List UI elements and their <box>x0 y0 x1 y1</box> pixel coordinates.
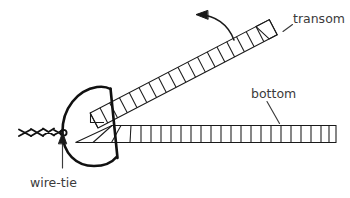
frame-lower-arc <box>63 134 117 167</box>
diagram-root: transom bottom wire-tie <box>0 0 350 198</box>
rotation-arrow <box>196 11 234 41</box>
bottom-leader-line <box>267 102 280 124</box>
label-bottom: bottom <box>251 86 296 101</box>
transom-ladder <box>90 20 277 128</box>
label-transom: transom <box>293 11 345 26</box>
transom-ladder-end-cap <box>90 113 98 128</box>
wire-tie-icon <box>19 129 67 137</box>
transom-leader-line <box>283 25 293 32</box>
label-wire-tie: wire-tie <box>30 175 77 190</box>
technical-diagram: transom bottom wire-tie <box>0 0 350 198</box>
transom-ladder-outline <box>90 20 277 128</box>
rotation-arrow-head <box>196 11 208 20</box>
transom-end-trapezoid <box>256 20 277 42</box>
transom-ladder-rungs <box>100 27 264 123</box>
bottom-ladder-rungs <box>93 126 329 143</box>
